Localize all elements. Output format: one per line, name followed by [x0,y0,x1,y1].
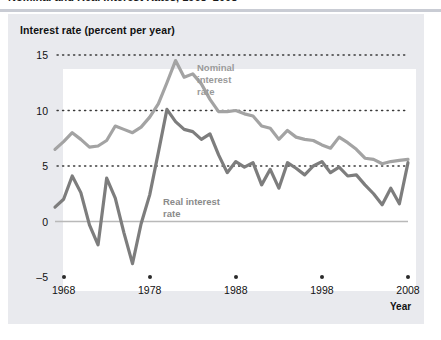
x-tick-1988: 1988 [224,284,247,296]
x-tick-1978: 1978 [138,284,161,296]
x-tick-1968: 1968 [52,284,75,296]
y-tick-0: 0 [20,216,48,228]
x-axis-title: Year [390,301,411,312]
x-tick-dot-1988 [234,275,238,279]
y-tick-15: 15 [20,49,48,61]
chart-figure: Nominal and Real Interest Rates, 1968–20… [0,0,441,340]
y-tick-5: 5 [20,160,48,172]
annotation-nominal: Nominal interest rate [197,62,234,98]
series-line-real [55,109,408,263]
x-tick-2008: 2008 [396,284,419,296]
x-tick-dot-2008 [406,275,410,279]
annotation-real: Real interest rate [163,196,220,220]
x-tick-dot-1998 [320,275,324,279]
x-tick-dot-1978 [148,275,152,279]
y-tick--5: –5 [20,271,48,283]
x-tick-dot-1968 [62,275,66,279]
y-tick-10: 10 [20,105,48,117]
x-tick-1998: 1998 [310,284,333,296]
